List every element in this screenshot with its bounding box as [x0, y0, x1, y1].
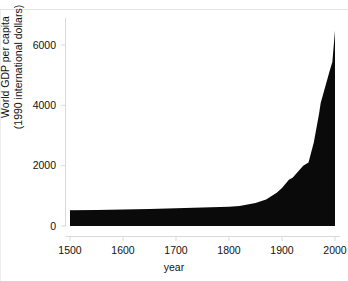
x-tick-label: 1900 [270, 244, 294, 256]
y-axis: 0200040006000 [33, 18, 66, 232]
x-tick-label: 1600 [111, 244, 135, 256]
x-tick-group: 150016001700180019002000 [58, 237, 347, 257]
y-tick-label: 0 [50, 220, 56, 232]
figure-container: Figure — long run economic growth 020004… [0, 0, 348, 281]
y-tick-group: 0200040006000 [33, 39, 66, 232]
y-tick-label: 6000 [33, 39, 57, 51]
x-axis-label: year [0, 261, 348, 273]
x-tick-label: 1700 [164, 244, 188, 256]
x-tick-label: 1500 [58, 244, 82, 256]
x-tick-label: 1800 [217, 244, 241, 256]
x-axis: 150016001700180019002000 [58, 237, 347, 257]
gdp-per-capita-area-chart: 0200040006000 150016001700180019002000 [0, 0, 348, 281]
plot-area [70, 31, 335, 226]
y-tick-label: 4000 [33, 99, 57, 111]
y-tick-label: 2000 [33, 159, 57, 171]
area-series-world-gdp-per-capita [70, 31, 335, 226]
x-tick-label: 2000 [323, 244, 347, 256]
